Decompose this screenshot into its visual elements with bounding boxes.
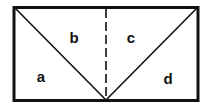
region-label-d: d <box>163 70 172 87</box>
divided-rectangle-diagram: a b c d <box>0 0 209 107</box>
region-label-c: c <box>127 29 135 46</box>
region-label-b: b <box>69 29 78 46</box>
region-label-a: a <box>37 68 46 85</box>
left-diagonal <box>15 8 106 100</box>
right-diagonal <box>106 8 197 100</box>
